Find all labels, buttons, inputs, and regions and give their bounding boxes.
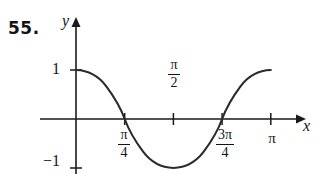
figure-container: 55. y x 1 −1 π (0, 0, 324, 174)
fraction-numerator: π (168, 58, 179, 73)
y-tick-label-negative-one: −1 (30, 152, 60, 170)
y-axis-label: y (62, 12, 69, 30)
x-axis-label: x (303, 117, 310, 135)
fraction-denominator: 4 (216, 146, 234, 161)
y-axis-arrowhead (72, 17, 81, 27)
x-tick-label-pi: π (258, 130, 286, 147)
fraction-denominator: 4 (118, 146, 129, 161)
x-tick-label-pi-over-2: π 2 (158, 58, 190, 91)
fraction-pi-over-4: π 4 (118, 128, 129, 160)
y-tick-label-one: 1 (40, 60, 60, 78)
fraction-3pi-over-4: 3π 4 (216, 128, 234, 160)
fraction-denominator: 2 (168, 76, 179, 91)
y-axis (72, 17, 81, 174)
x-tick-label-3pi-over-4: 3π 4 (205, 128, 245, 161)
fraction-numerator: 3π (216, 128, 234, 143)
fraction-pi-over-2: π 2 (168, 58, 179, 90)
fraction-numerator: π (118, 128, 129, 143)
x-tick-label-pi-over-4: π 4 (108, 128, 140, 161)
